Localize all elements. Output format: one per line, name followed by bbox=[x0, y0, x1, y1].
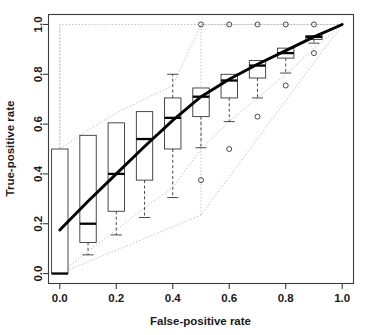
boxplot-group-0 bbox=[52, 149, 68, 274]
y-axis-title: True-positive rate bbox=[4, 101, 16, 197]
plot-canvas: 0.00.20.40.60.81.00.00.20.40.60.81.0 Fal… bbox=[0, 0, 367, 335]
box-body bbox=[52, 149, 68, 274]
y-tick-label-1: 0.2 bbox=[33, 216, 45, 232]
x-tick-label-4: 0.8 bbox=[278, 292, 295, 304]
outlier-point-0 bbox=[311, 51, 316, 56]
boxplot-layer bbox=[52, 22, 323, 274]
boxplot-group-4 bbox=[165, 74, 181, 197]
x-tick-label-0: 0.0 bbox=[52, 292, 68, 304]
x-tick-label-3: 0.6 bbox=[221, 292, 237, 304]
x-tick-label-5: 1.0 bbox=[334, 292, 350, 304]
x-tick-label-1: 0.2 bbox=[108, 292, 124, 304]
boxplot-group-7 bbox=[249, 22, 265, 119]
box-body bbox=[80, 135, 96, 242]
y-tick-label-3: 0.6 bbox=[33, 116, 45, 132]
boxplot-group-3 bbox=[136, 112, 152, 218]
roc-boxplot-figure: 0.00.20.40.60.81.00.00.20.40.60.81.0 Fal… bbox=[0, 0, 367, 335]
boxplot-group-6 bbox=[221, 22, 237, 152]
band-layer bbox=[60, 24, 342, 273]
y-tick-label-4: 0.8 bbox=[33, 66, 45, 83]
y-tick-label-2: 0.4 bbox=[33, 165, 45, 182]
outlier-point-0 bbox=[255, 114, 260, 119]
x-tick-label-2: 0.4 bbox=[165, 292, 182, 304]
x-axis-title: False-positive rate bbox=[150, 315, 251, 327]
y-tick-label-0: 0.0 bbox=[33, 266, 45, 282]
outlier-point-0 bbox=[227, 147, 232, 152]
box-body bbox=[165, 98, 181, 149]
y-tick-label-5: 1.0 bbox=[33, 16, 45, 32]
outlier-point-0 bbox=[283, 83, 288, 88]
